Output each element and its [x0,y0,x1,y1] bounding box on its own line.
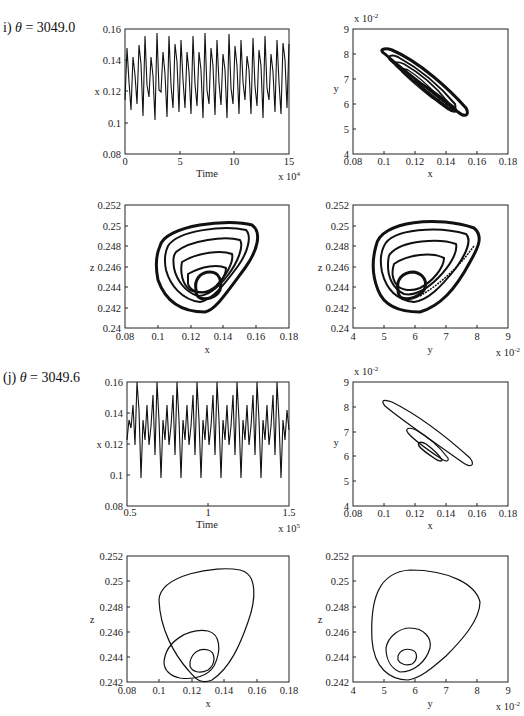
y-tick: 0.252 [325,551,349,562]
y-tick: 0.246 [325,627,349,638]
x-axis-label: y [427,698,433,709]
y-tick: 0.244 [325,652,349,663]
y-axis: 0.252 0.25 0.248 0.246 0.244 0.242 z [318,551,350,688]
x-multiplier: x 10-2 [496,700,521,712]
x-tick: 6 [412,685,417,696]
x-tick: 7 [443,685,448,696]
chart-j-yz-svg: 0.252 0.25 0.248 0.246 0.244 0.242 z 4 5… [0,0,524,716]
limit-cycle-curves [372,570,480,680]
y-tick: 0.242 [325,677,349,688]
x-tick: 8 [474,685,479,696]
x-tick: 4 [350,685,356,696]
plot-frame [353,556,508,682]
x-tick: 9 [505,685,510,696]
x-axis: 4 5 6 7 8 9 y x 10-2 [350,685,520,712]
y-tick: 0.248 [325,602,349,613]
chart-j-yz: 0.252 0.25 0.248 0.246 0.244 0.242 z 4 5… [0,0,524,716]
y-axis-label: z [318,614,323,625]
x-tick: 5 [381,685,386,696]
y-tick: 0.25 [331,576,349,587]
